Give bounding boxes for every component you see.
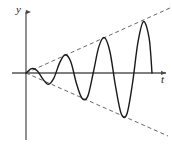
- upper-envelope-line: [26, 8, 170, 73]
- y-axis-label: y: [16, 4, 21, 15]
- lower-envelope-line: [26, 73, 168, 136]
- figure-container: y t: [0, 0, 172, 146]
- plot-canvas: [0, 0, 172, 146]
- t-axis-label: t: [161, 74, 164, 85]
- growing-sinusoid-curve: [26, 21, 152, 117]
